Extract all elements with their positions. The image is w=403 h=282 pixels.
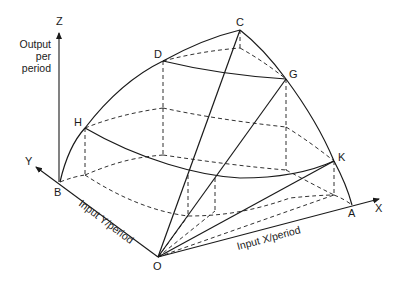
point-k-label: K: [338, 151, 346, 163]
surface-edge-ca: [240, 30, 352, 205]
point-c-label: C: [236, 16, 244, 28]
dash-h-mid: [85, 108, 163, 128]
z-axis-label: Z: [56, 15, 63, 27]
diagram-canvas: Z Output per period Y X Input Y/period I…: [0, 0, 403, 282]
dash-floor-h: [85, 155, 163, 175]
isoquant-dg: [163, 61, 286, 79]
point-h-label: H: [74, 116, 82, 128]
ray-oc: [158, 30, 240, 257]
z-axis-title-1: Output: [19, 38, 51, 50]
point-a-label: A: [348, 207, 356, 219]
z-axis-title-3: period: [22, 62, 51, 74]
isoquant-hk: [85, 128, 334, 178]
y-axis-title: Input Y/period: [77, 197, 136, 246]
x-axis-label: X: [375, 202, 383, 214]
x-axis: [158, 199, 379, 257]
z-axis-title-2: per: [36, 50, 52, 62]
ray-og: [158, 79, 286, 257]
production-surface-diagram: Z Output per period Y X Input Y/period I…: [0, 0, 403, 282]
dash-mid-back: [163, 108, 286, 127]
point-d-label: D: [154, 48, 162, 60]
dash-top-g: [240, 48, 286, 79]
point-b-label: B: [54, 186, 61, 198]
point-o-label: O: [153, 260, 162, 272]
point-g-label: G: [289, 68, 298, 80]
dash-floor-b: [60, 175, 85, 182]
y-axis-label: Y: [25, 155, 33, 167]
